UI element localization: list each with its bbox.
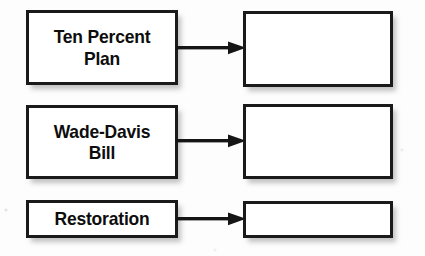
term-box-ten-percent-plan: Ten Percent Plan	[26, 10, 178, 85]
answer-box-label	[252, 14, 384, 84]
term-box-restoration: Restoration	[26, 200, 178, 238]
answer-box-1[interactable]	[243, 11, 393, 87]
answer-box-label	[252, 107, 384, 176]
arrow-right-icon	[176, 212, 246, 226]
term-box-label: Wade-Davis Bill	[35, 108, 169, 176]
graphic-organizer-diagram: Ten Percent Plan Wade-Davis Bill Restora…	[0, 0, 425, 256]
answer-box-2[interactable]	[243, 104, 393, 179]
answer-box-3[interactable]	[243, 201, 393, 238]
term-box-label: Ten Percent Plan	[35, 13, 169, 82]
term-box-label: Restoration	[35, 203, 169, 235]
arrow-right-icon	[176, 134, 246, 148]
arrow-right-icon	[176, 41, 246, 55]
answer-box-label	[252, 204, 384, 235]
term-box-wade-davis-bill: Wade-Davis Bill	[26, 105, 178, 179]
